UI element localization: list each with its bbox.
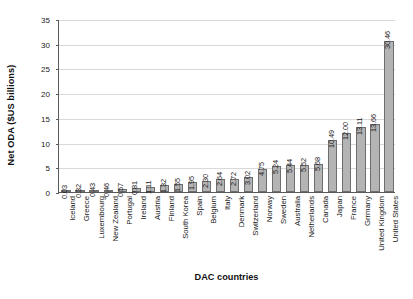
x-category-label: South Korea (181, 196, 190, 239)
bar-chart-figure: Net ODA ($US billions) 05101520253035 0.… (0, 0, 413, 299)
x-category-label: Iceland (68, 196, 77, 221)
x-category-label: Finland (167, 196, 176, 221)
bar-value-label: 0.81 (130, 182, 139, 196)
bar-value-label: 2.64 (215, 172, 224, 186)
x-category-label: Norway (265, 196, 274, 222)
x-category-label: Greece (82, 196, 91, 221)
y-tick-label: 20 (41, 90, 50, 99)
bar-value-label: 5.52 (299, 158, 308, 172)
x-axis-category-labels: IcelandGreeceLuxembourgNew ZealandPortug… (58, 196, 395, 266)
bars-layer: 0.030.320.430.460.570.811.111.321.551.95… (59, 20, 395, 192)
y-tick-label: 35 (41, 16, 50, 25)
bar-value-label: 3.02 (243, 171, 252, 185)
x-category-label: Ireland (139, 196, 148, 220)
x-category-label: Switzerland (251, 196, 260, 236)
y-tick-label: 10 (41, 139, 50, 148)
y-axis-title-text: Net ODA ($US billions) (6, 65, 16, 166)
x-category-label: Italy (223, 196, 232, 210)
y-tick-label: 0 (46, 189, 50, 198)
x-category-label: Luxembourg (97, 196, 106, 239)
bar-value-label: 1.55 (173, 178, 182, 192)
y-tick-label: 25 (41, 65, 50, 74)
x-category-label: Spain (195, 196, 204, 216)
bar-value-label: 12.00 (341, 122, 350, 140)
bar-value-label: 2.72 (229, 172, 238, 186)
bar-value-label: 2.30 (201, 174, 210, 188)
plot-area: 0.030.320.430.460.570.811.111.321.551.95… (58, 20, 395, 193)
y-axis-title: Net ODA ($US billions) (0, 0, 22, 230)
x-category-label: Grrmany (363, 196, 372, 226)
bar-value-label: 5.68 (313, 157, 322, 171)
x-category-label: New Zealand (111, 196, 120, 241)
bar (342, 133, 351, 192)
x-category-label: Sweden (279, 196, 288, 224)
x-category-label: Denmark (237, 196, 246, 227)
bar-value-label: 13.11 (355, 117, 364, 134)
y-tick-label: 30 (41, 40, 50, 49)
bar-value-label: 13.66 (369, 114, 378, 132)
bar (384, 41, 393, 192)
x-category-label: Australia (293, 196, 302, 226)
bar-value-label: 1.95 (187, 176, 196, 190)
x-category-label: Belgium (209, 196, 218, 224)
bar (370, 124, 379, 192)
x-category-label: Austria (153, 196, 162, 220)
x-category-label: Netherlands (307, 196, 316, 238)
x-category-label: United States (391, 196, 400, 242)
bar-value-label: 30.46 (383, 31, 392, 49)
bar-value-label: 10.49 (327, 130, 336, 148)
y-tick-label: 5 (46, 164, 50, 173)
x-category-label: France (349, 196, 358, 220)
y-tick-mark (56, 193, 59, 194)
bar-value-label: 0.57 (116, 183, 125, 197)
x-category-label: Portugal (125, 196, 134, 225)
x-category-label: Canada (321, 196, 330, 223)
x-category-label: United Kingdom (377, 196, 386, 251)
bar-value-label: 5.44 (285, 159, 294, 173)
bar-value-label: 1.11 (144, 181, 153, 194)
bar (356, 127, 365, 192)
bar-value-label: 4.75 (257, 162, 266, 176)
bar-value-label: 1.32 (159, 179, 168, 193)
bar-value-label: 5.24 (271, 160, 280, 174)
y-tick-label: 15 (41, 114, 50, 123)
x-axis-title: DAC countries (58, 272, 395, 282)
x-category-label: Japan (335, 196, 344, 217)
y-axis-tick-labels: 05101520253035 (24, 20, 54, 193)
